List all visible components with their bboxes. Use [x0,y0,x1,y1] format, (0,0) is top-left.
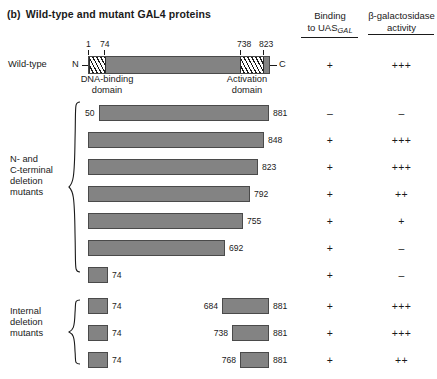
galactosidase-header-line2: activity [366,22,437,34]
activation-domain-label-line2: domain [205,85,289,97]
residue-mark-74: 74 [100,40,110,49]
column-header-binding: Binding to UASGAL [299,10,361,38]
table-row-bar [88,213,243,229]
table-row-activity-value: – [366,243,437,254]
table-row-binding-value: – [299,108,361,119]
table-row-end-label: 792 [254,190,268,199]
activation-domain-hatch [240,57,264,73]
wild-type-binding-value: + [299,60,361,71]
table-row-bar [88,186,250,202]
table-row-bar-left [88,352,108,368]
c-terminus-leader [270,65,277,66]
table-row-binding-value: + [299,301,361,312]
dna-binding-domain-label-line2: domain [59,85,155,97]
terminal-group-label-line2: C-terminal [10,165,53,177]
table-row-bar-right [240,352,269,368]
wild-type-label: Wild-type [8,59,47,71]
table-row-binding-value: + [299,162,361,173]
tick-mark-74 [104,50,105,55]
wild-type-activity-value: +++ [366,60,437,71]
table-row-end-label: 848 [268,136,282,145]
n-terminus-label: N [72,59,79,71]
table-row-binding-value: + [299,355,361,366]
terminal-group-label-line4: mutants [10,187,43,199]
panel-title-text: Wild-type and mutant GAL4 proteins [26,8,211,20]
table-row-left-end-label: 74 [112,356,122,365]
residue-mark-738: 738 [237,40,251,49]
table-row-end-label: 755 [247,217,261,226]
table-row-left-end-label: 74 [112,329,122,338]
table-row-end-label: 823 [262,163,276,172]
column-header-galactosidase: β-galactosidase activity [366,10,437,35]
table-row-right-end-label: 881 [273,329,287,338]
binding-header-uas: to UAS [307,22,337,33]
table-row-activity-value: +++ [366,328,437,339]
table-row-right-start-label: 738 [196,329,228,338]
figure-panel: (b)Wild-type and mutant GAL4 proteins Bi… [0,0,437,379]
table-row-bar-right [232,325,269,341]
table-row-binding-value: + [299,216,361,227]
table-row-bar-left [88,325,108,341]
dna-binding-domain-label-line1: DNA-binding [59,74,155,86]
residue-mark-823: 823 [259,40,273,49]
table-row-right-end-label: 881 [273,302,287,311]
binding-header-line2: to UASGAL [299,22,361,37]
table-row-left-end-label: 74 [112,302,122,311]
dna-binding-domain-hatch [89,57,106,73]
terminal-deletion-brace [68,101,82,273]
table-row-activity-value: ++ [366,189,437,200]
internal-group-label-line2: deletion [10,317,43,329]
table-row-binding-value: + [299,270,361,281]
table-row-activity-value: – [366,108,437,119]
galactosidase-header-line1: β-galactosidase [366,10,437,22]
table-row-binding-value: + [299,189,361,200]
terminal-group-label-line3: deletion [10,176,43,188]
table-row-right-end-label: 881 [273,356,287,365]
tick-mark-823 [263,50,264,55]
tick-mark-738 [240,50,241,55]
table-row-activity-value: – [366,270,437,281]
table-row-end-label: 74 [112,271,122,280]
table-row-bar [88,240,225,256]
galactosidase-header-rule [368,34,434,35]
table-row-bar [88,159,258,175]
internal-group-label-line1: Internal [10,306,41,318]
table-row-bar [88,132,264,148]
table-row-bar-left [88,298,108,314]
internal-deletion-brace [68,299,82,365]
binding-header-line1: Binding [299,10,361,22]
binding-header-rule [301,37,358,38]
terminal-group-label-line1: N- and [10,154,38,166]
table-row-activity-value: ++ [366,355,437,366]
page-title: (b)Wild-type and mutant GAL4 proteins [7,8,211,20]
table-row-binding-value: + [299,243,361,254]
wild-type-protein-bar [88,56,270,74]
table-row-start-label: 50 [85,109,95,118]
table-row-activity-value: +++ [366,135,437,146]
panel-label: (b) [7,8,21,20]
table-row-end-label: 881 [273,109,287,118]
table-row-right-start-label: 768 [204,356,236,365]
table-row-right-start-label: 684 [186,302,218,311]
tick-mark-1 [88,50,89,55]
table-row-activity-value: + [366,216,437,227]
table-row-activity-value: +++ [366,162,437,173]
table-row-activity-value: +++ [366,301,437,312]
activation-domain-label-line1: Activation [205,74,289,86]
table-row-binding-value: + [299,135,361,146]
internal-group-label-line3: mutants [10,328,43,340]
table-row-end-label: 692 [229,244,243,253]
table-row-bar-right [222,298,269,314]
residue-mark-1: 1 [86,40,91,49]
binding-header-subscript: GAL [338,26,353,35]
table-row-bar [99,105,269,121]
c-terminus-label: C [279,59,286,71]
table-row-binding-value: + [299,328,361,339]
table-row-bar [88,267,108,283]
